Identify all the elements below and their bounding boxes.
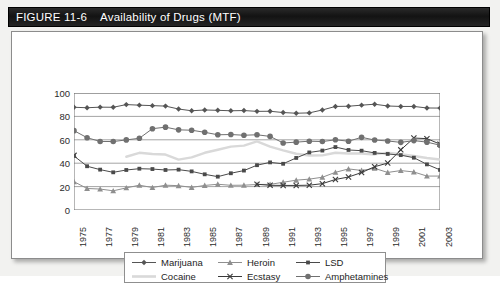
y-tick-label: 0 bbox=[46, 205, 70, 216]
data-point bbox=[98, 168, 102, 172]
data-point bbox=[189, 127, 195, 133]
data-point bbox=[280, 140, 286, 146]
data-point bbox=[123, 137, 129, 143]
data-point bbox=[306, 261, 310, 265]
figure-title: Availability of Drugs (MTF) bbox=[100, 11, 241, 23]
y-tick-label: 40 bbox=[46, 158, 70, 169]
data-point bbox=[228, 132, 234, 138]
chart-legend: MarijuanaCocaineHeroinEcstasyLSDAmphetam… bbox=[124, 252, 386, 283]
data-point bbox=[242, 169, 246, 173]
legend-item[interactable]: Heroin bbox=[217, 256, 275, 269]
data-point bbox=[346, 138, 352, 144]
x-tick-label: 1989 bbox=[261, 227, 271, 247]
data-point bbox=[124, 168, 128, 172]
data-point bbox=[307, 151, 311, 155]
data-point bbox=[97, 139, 103, 145]
series-ecstasy bbox=[74, 135, 440, 188]
data-point bbox=[411, 104, 416, 109]
data-point bbox=[202, 107, 207, 112]
data-point bbox=[151, 167, 155, 171]
data-point bbox=[280, 110, 285, 115]
data-point bbox=[294, 111, 299, 116]
figure-number: FIGURE 11-6 bbox=[16, 11, 87, 23]
x-tick-label: 1993 bbox=[313, 227, 323, 247]
x-tick-label: 1977 bbox=[104, 227, 114, 247]
data-point bbox=[333, 104, 338, 109]
data-point bbox=[74, 154, 76, 158]
data-point bbox=[150, 126, 156, 132]
legend-symbol-square-icon bbox=[295, 257, 321, 268]
data-point bbox=[228, 108, 233, 113]
chart-svg bbox=[74, 93, 440, 210]
y-axis-tick-labels: 020406080100 bbox=[44, 93, 70, 210]
x-tick-label: 1985 bbox=[208, 227, 218, 247]
data-point bbox=[294, 156, 298, 160]
data-point bbox=[216, 175, 220, 179]
x-tick-label: 1979 bbox=[130, 227, 140, 247]
data-point bbox=[111, 105, 116, 110]
legend-label: Ecstasy bbox=[247, 271, 280, 282]
data-point bbox=[84, 105, 89, 110]
data-point bbox=[359, 135, 365, 141]
data-point bbox=[398, 147, 403, 152]
data-point bbox=[190, 169, 194, 173]
data-point bbox=[372, 137, 378, 143]
data-point bbox=[141, 260, 146, 265]
x-tick-label: 1991 bbox=[287, 227, 297, 247]
data-point bbox=[411, 138, 417, 144]
data-point bbox=[373, 151, 377, 155]
series-lsd bbox=[74, 145, 440, 178]
data-point bbox=[347, 148, 351, 152]
data-point bbox=[306, 138, 312, 144]
data-point bbox=[215, 108, 220, 113]
y-tick-label: 100 bbox=[46, 88, 70, 99]
legend-label: LSD bbox=[325, 257, 343, 268]
data-point bbox=[176, 127, 182, 133]
data-point bbox=[386, 152, 390, 156]
data-point bbox=[281, 162, 285, 166]
data-point bbox=[164, 168, 168, 172]
data-point bbox=[215, 132, 221, 138]
data-point bbox=[136, 182, 142, 187]
legend-label: Marijuana bbox=[161, 257, 203, 268]
x-tick-label: 2003 bbox=[444, 227, 454, 247]
legend-item[interactable]: Marijuana bbox=[131, 256, 203, 269]
data-point bbox=[307, 110, 312, 115]
data-point bbox=[305, 274, 311, 280]
legend-label: Cocaine bbox=[161, 271, 196, 282]
figure-panel: 020406080100 197519771979198119831985198… bbox=[11, 31, 483, 259]
data-point bbox=[176, 106, 181, 111]
data-point bbox=[254, 109, 259, 114]
legend-item[interactable]: Ecstasy bbox=[217, 270, 280, 283]
x-axis-tick-labels: 1975197719791981198319851987198919911993… bbox=[74, 214, 440, 250]
legend-item[interactable]: Amphetamines bbox=[295, 270, 388, 283]
data-point bbox=[267, 134, 273, 140]
data-point bbox=[111, 170, 115, 174]
data-point bbox=[255, 163, 259, 167]
legend-item[interactable]: LSD bbox=[295, 256, 343, 269]
data-point bbox=[241, 132, 247, 138]
data-point bbox=[137, 167, 141, 171]
x-tick-label: 1987 bbox=[234, 227, 244, 247]
data-point bbox=[202, 130, 208, 136]
data-point bbox=[346, 104, 351, 109]
y-tick-label: 20 bbox=[46, 181, 70, 192]
data-point bbox=[360, 149, 364, 153]
data-point bbox=[424, 105, 429, 110]
series-line bbox=[74, 147, 440, 177]
data-point bbox=[320, 107, 325, 112]
data-point bbox=[85, 164, 89, 168]
data-point bbox=[438, 168, 440, 172]
x-tick-label: 2001 bbox=[417, 227, 427, 247]
x-tick-label: 1995 bbox=[339, 227, 349, 247]
data-point bbox=[398, 140, 404, 146]
data-point bbox=[412, 156, 416, 160]
data-point bbox=[399, 153, 403, 157]
x-tick-label: 1981 bbox=[156, 227, 166, 247]
data-point bbox=[425, 162, 429, 166]
legend-item[interactable]: Cocaine bbox=[131, 270, 196, 283]
data-point bbox=[372, 102, 377, 107]
data-point bbox=[84, 135, 90, 141]
data-point bbox=[177, 168, 181, 172]
